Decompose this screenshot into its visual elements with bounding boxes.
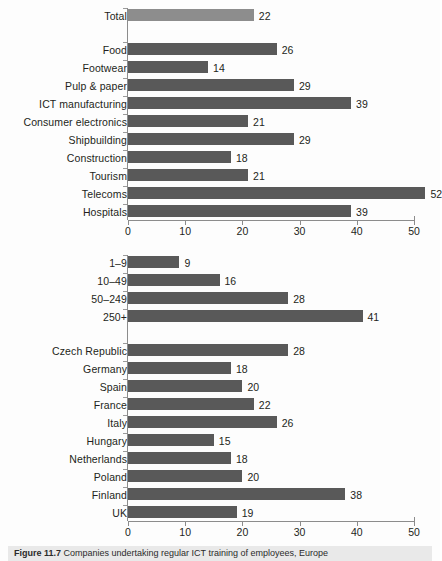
bar-value-label: 18 [236,153,248,164]
bar-category-label: Shipbuilding [69,135,127,146]
bar-row: Hospitals39 [0,204,440,220]
figure-caption-number: Figure 11.7 [14,548,61,558]
bar [128,151,231,163]
bar-category-label: France [94,400,127,411]
bar-category-label: Poland [94,472,127,483]
bar-category-label: Spain [100,382,127,393]
bar [128,310,363,322]
bar-category-label: 250+ [103,312,127,323]
bar-value-label: 21 [253,117,265,128]
bar-row: Shipbuilding29 [0,132,440,148]
bar-row: Poland20 [0,469,440,485]
bar-value-label: 20 [247,472,259,483]
bar-value-label: 15 [219,436,231,447]
bar-value-label: 16 [225,276,237,287]
chart-size-and-country: 1–9910–491650–24928250+41Czech Republic2… [0,255,440,535]
bar [128,79,294,91]
bar-category-label: Finland [92,490,127,501]
bar-row: Finland38 [0,487,440,503]
bar-row: Germany18 [0,361,440,377]
bar-category-label: UK [112,508,127,519]
bar [128,344,288,356]
bar-row: Czech Republic28 [0,343,440,359]
x-axis-end-cap [414,216,415,221]
x-axis-tick-label: 50 [408,226,420,237]
x-axis-end-cap [414,517,415,522]
x-axis-ticks: 01020304050 [0,221,440,237]
bar-category-label: ICT manufacturing [39,99,127,110]
bar-row: 50–24928 [0,291,440,307]
bar-value-label: 29 [299,81,311,92]
bar [128,488,345,500]
x-axis-tick-label: 40 [351,527,363,538]
bar-value-label: 52 [430,189,442,200]
bar-value-label: 22 [259,400,271,411]
bar-value-label: 14 [213,63,225,74]
chart-sectors: Total22Food26Footwear14Pulp & paper29ICT… [0,8,440,236]
bar-row: Netherlands18 [0,451,440,467]
bar [128,97,351,109]
bar-category-label: 10–49 [97,276,127,287]
bar-row: UK19 [0,505,440,521]
x-axis-tick-label: 0 [125,226,131,237]
bar-row: Construction18 [0,150,440,166]
bar-row: 250+41 [0,309,440,325]
x-axis-tick-label: 0 [125,527,131,538]
figure-caption: Figure 11.7 Companies undertaking regula… [8,546,432,561]
bar-value-label: 19 [242,508,254,519]
bar [128,43,277,55]
bar-value-label: 28 [293,294,305,305]
bar-row: Food26 [0,42,440,58]
bar-category-label: Italy [107,418,127,429]
bar-row: Consumer electronics21 [0,114,440,130]
bar [128,380,242,392]
figure-caption-text: Figure 11.7 Companies undertaking regula… [14,548,328,559]
bar-category-label: Hospitals [83,207,127,218]
bar-value-label: 29 [299,135,311,146]
bar [128,452,231,464]
bar [128,506,237,518]
bar [128,398,254,410]
bar-value-label: 39 [356,99,368,110]
bar-category-label: Germany [83,364,127,375]
bar-value-label: 38 [350,490,362,501]
bar-category-label: Construction [67,153,127,164]
bar [128,256,179,268]
bar [128,9,254,21]
bar-value-label: 18 [236,454,248,465]
bar-row: Total22 [0,8,440,24]
x-axis-tick-label: 40 [351,226,363,237]
x-axis-tick-label: 30 [294,527,306,538]
bar [128,205,351,217]
x-axis-tick-label: 50 [408,527,420,538]
bar-value-label: 21 [253,171,265,182]
y-axis-line [127,8,128,220]
x-axis-tick-label: 20 [237,527,249,538]
y-axis-line [127,255,128,521]
bar-category-label: Telecoms [82,189,127,200]
bar-category-label: 1–9 [109,258,127,269]
bar [128,292,288,304]
bar-row: Pulp & paper29 [0,78,440,94]
bar-category-label: Netherlands [69,454,127,465]
bar-value-label: 39 [356,207,368,218]
bar-value-label: 26 [282,45,294,56]
bar-category-label: Hungary [87,436,127,447]
bar-row: 1–99 [0,255,440,271]
bar [128,169,248,181]
bar-category-label: Pulp & paper [65,81,127,92]
bar [128,362,231,374]
bar-value-label: 26 [282,418,294,429]
bar-row: 10–4916 [0,273,440,289]
figure-caption-body: Companies undertaking regular ICT traini… [64,548,328,558]
bar-value-label: 9 [184,258,190,269]
bar [128,187,425,199]
bar-category-label: Footwear [82,63,127,74]
bar-row: Hungary15 [0,433,440,449]
bar-value-label: 41 [368,312,380,323]
bar [128,115,248,127]
bar-row: Telecoms52 [0,186,440,202]
bar-row: ICT manufacturing39 [0,96,440,112]
bar-category-label: Czech Republic [52,346,127,357]
